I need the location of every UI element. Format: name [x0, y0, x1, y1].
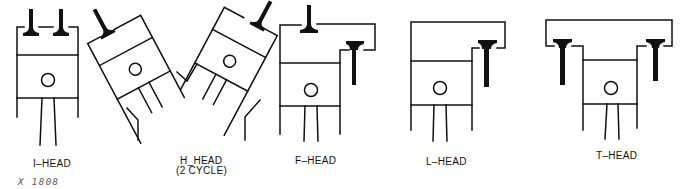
i-head-rod-right	[54, 98, 56, 145]
i-head-cylinder-right-wall	[69, 27, 78, 117]
f-head-rod-left	[304, 106, 305, 141]
l-head-diagram: L–HEAD	[411, 22, 505, 167]
t-head-cylinder-left-wall	[572, 46, 583, 130]
h-head-left-valve-icon	[87, 6, 115, 40]
figure-reference-number: X 1808	[17, 177, 60, 187]
l-head-label: L–HEAD	[426, 156, 467, 167]
l-head-rod-right	[446, 105, 447, 141]
wrist-pin-icon	[434, 82, 447, 95]
f-head-inner-wall	[340, 50, 349, 134]
overhead-valve-icon	[300, 5, 318, 33]
h-head-left-cylinder	[75, 0, 194, 143]
f-head-diagram: F–HEAD	[280, 5, 375, 166]
h-head-right-cylinder	[171, 0, 290, 135]
h-head-right-valve-icon	[249, 0, 277, 32]
f-head-label: F–HEAD	[295, 155, 336, 166]
f-head-top-right	[317, 24, 375, 50]
t-head-rod-right	[618, 104, 619, 139]
side-valve-icon	[346, 41, 364, 85]
l-head-outer-wall	[411, 22, 505, 130]
side-valve-icon	[478, 40, 497, 87]
f-head-left-wall	[280, 25, 301, 134]
h-head-diagram: H_HEAD (2 CYCLE)	[75, 0, 290, 176]
i-head-rod-left	[40, 98, 42, 145]
l-head-rod-left	[433, 105, 434, 141]
t-head-cylinder-right-wall	[637, 46, 646, 128]
i-head-diagram: I–HEAD	[17, 9, 78, 169]
intake-valve-icon	[23, 9, 39, 36]
f-head-rod-right	[317, 106, 318, 141]
l-head-inner-wall	[472, 48, 479, 130]
t-head-rod-left	[605, 104, 607, 139]
h-head-right-lower-wall	[245, 100, 260, 140]
t-head-diagram: T–HEAD	[546, 20, 672, 161]
exhaust-valve-icon	[53, 9, 69, 36]
engine-head-types-diagram: I–HEAD	[0, 0, 684, 189]
t-head-label: T–HEAD	[596, 150, 637, 161]
i-head-cylinder-left-wall	[17, 27, 24, 117]
i-head-label: I–HEAD	[33, 158, 71, 169]
h-head-sublabel: (2 CYCLE)	[176, 165, 227, 176]
wrist-pin-icon	[605, 82, 618, 95]
wrist-pin-icon	[42, 74, 55, 87]
wrist-pin-icon	[305, 84, 318, 97]
intake-valve-icon	[553, 39, 572, 85]
exhaust-valve-icon	[646, 39, 665, 81]
